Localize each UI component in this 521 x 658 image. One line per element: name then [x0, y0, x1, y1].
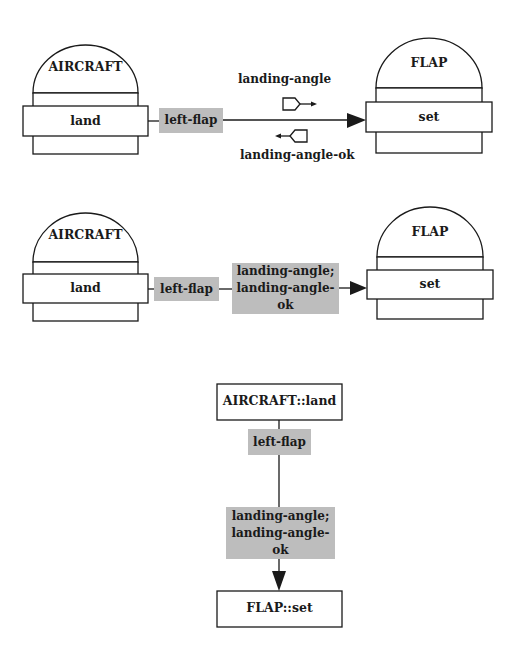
message-flag-right-icon: [283, 98, 300, 110]
set-operation-label-1: set: [366, 111, 492, 124]
aircraft-object-label-2: AIRCRAFT: [33, 229, 138, 242]
diagram-canvas: [0, 0, 521, 658]
land-operation-label-2: land: [23, 282, 148, 295]
messages-line-2: landing-angle-ok: [232, 280, 339, 314]
message-arrow-right-head: [311, 102, 317, 107]
messages-line-1: landing-angle;: [232, 263, 339, 280]
aircraft-object-label-1: AIRCRAFT: [33, 61, 138, 74]
arrowhead-down-3: [272, 571, 286, 591]
arrowhead-right-1: [347, 113, 366, 128]
link-label-2: left-flap: [154, 283, 219, 295]
set-operation-label-2: set: [367, 278, 493, 291]
message-label-landing-angle-ok: landing-angle-ok: [240, 149, 350, 161]
land-operation-label-1: land: [23, 115, 148, 128]
source-label-3: AIRCRAFT::land: [217, 395, 342, 408]
flap-object-label-1: FLAP: [376, 57, 482, 70]
arrowhead-right-2: [350, 281, 367, 295]
flap-object-label-2: FLAP: [377, 226, 483, 239]
message-flag-left-icon: [290, 130, 307, 142]
link-label-3: left-flap: [248, 436, 311, 448]
messages-line-1: landing-angle;: [226, 508, 335, 525]
link-label-1: left-flap: [159, 114, 223, 126]
messages-box-text-2: landing-angle; landing-angle-ok: [232, 263, 339, 314]
message-arrow-left-head: [275, 134, 281, 139]
message-label-landing-angle: landing-angle: [238, 73, 330, 85]
target-label-3: FLAP::set: [217, 602, 342, 615]
messages-box-text-3: landing-angle; landing-angle-ok: [226, 507, 335, 559]
messages-line-2: landing-angle-ok: [226, 525, 335, 559]
